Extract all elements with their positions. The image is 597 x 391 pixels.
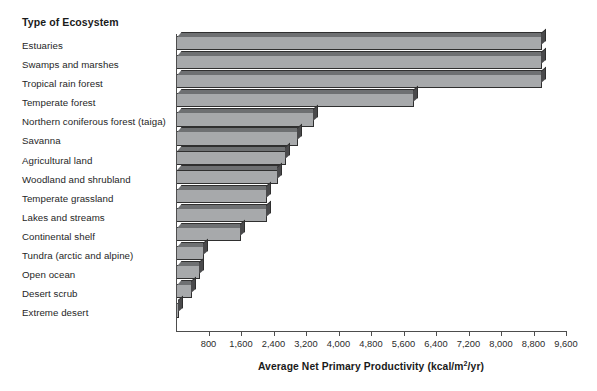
bar [176, 284, 192, 298]
category-label: Continental shelf [22, 227, 172, 246]
bar-top-face [177, 146, 289, 151]
bar [176, 227, 241, 241]
bar [176, 112, 314, 126]
x-tick-label: 3,200 [294, 339, 317, 349]
bar-top-face [177, 165, 281, 170]
x-tick [209, 331, 210, 336]
x-tick-label: 8,800 [522, 339, 545, 349]
category-column-title: Type of Ecosystem [22, 16, 119, 28]
bar-top-face [177, 108, 318, 113]
bar-side-face [178, 296, 183, 312]
category-label: Desert scrub [22, 284, 172, 303]
bar-side-face [266, 181, 271, 197]
bar-top-face [177, 32, 545, 37]
bar-top-face [177, 127, 302, 132]
category-label: Open ocean [22, 265, 172, 284]
x-tick-label: 7,200 [457, 339, 480, 349]
category-label: Woodland and shrubland [22, 170, 172, 189]
bar-side-face [285, 143, 290, 159]
bar-top-face [177, 51, 545, 56]
bar-side-face [541, 67, 546, 83]
bar-top-face [177, 204, 271, 209]
category-label: Temperate forest [22, 93, 172, 112]
bar [176, 131, 298, 145]
x-tick [501, 331, 502, 336]
bar [176, 265, 200, 279]
x-tick-label: 5,600 [392, 339, 415, 349]
bar-row [176, 263, 576, 282]
x-tick [371, 331, 372, 336]
x-tick [436, 331, 437, 336]
category-label: Extreme desert [22, 303, 172, 322]
x-tick-label: 2,400 [262, 339, 285, 349]
x-tick [404, 331, 405, 336]
category-label: Lakes and streams [22, 208, 172, 227]
bar-top-face [177, 89, 417, 94]
bar [176, 74, 542, 88]
bar-side-face [266, 201, 271, 217]
bar-side-face [413, 86, 418, 102]
x-tick [339, 331, 340, 336]
bar-top-face [177, 185, 271, 190]
x-tick [469, 331, 470, 336]
bar [176, 36, 542, 50]
bar-row [176, 168, 576, 187]
x-axis-title-main: Average Net Primary Productivity (kcal/m [258, 361, 464, 372]
bar-side-face [541, 48, 546, 64]
bar-row [176, 225, 576, 244]
bar [176, 55, 542, 69]
x-tick-label: 800 [201, 339, 217, 349]
ecosystem-productivity-chart: Type of Ecosystem EstuariesSwamps and ma… [0, 0, 597, 391]
bar-side-face [297, 124, 302, 140]
category-label-list: EstuariesSwamps and marshesTropical rain… [22, 36, 172, 322]
category-label: Savanna [22, 131, 172, 150]
bar [176, 170, 278, 184]
x-tick [566, 331, 567, 336]
x-tick [306, 331, 307, 336]
bar-side-face [199, 258, 204, 274]
bar-row [176, 244, 576, 263]
category-label: Estuaries [22, 36, 172, 55]
bar-side-face [191, 277, 196, 293]
category-label: Tundra (arctic and alpine) [22, 246, 172, 265]
bar [176, 189, 267, 203]
x-tick-label: 4,800 [359, 339, 382, 349]
bar [176, 246, 204, 260]
bar-row [176, 187, 576, 206]
bar-row [176, 282, 576, 301]
x-tick-label: 1,600 [229, 339, 252, 349]
plot-area [176, 34, 576, 331]
bar-top-face [177, 223, 245, 228]
x-tick-label: 9,600 [554, 339, 577, 349]
category-label: Tropical rain forest [22, 74, 172, 93]
category-label: Agricultural land [22, 151, 172, 170]
bar [176, 151, 286, 165]
y-axis-line [176, 34, 177, 332]
category-label: Temperate grassland [22, 189, 172, 208]
x-tick [241, 331, 242, 336]
bar-side-face [313, 105, 318, 121]
bar-top-face [177, 70, 545, 75]
bar-side-face [541, 29, 546, 45]
category-label: Northern coniferous forest (taiga) [22, 112, 172, 131]
x-tick-label: 6,400 [424, 339, 447, 349]
bar-side-face [240, 220, 245, 236]
x-tick [274, 331, 275, 336]
x-tick-label: 8,000 [489, 339, 512, 349]
x-axis-title: Average Net Primary Productivity (kcal/m… [176, 360, 566, 372]
x-axis-title-tail: /yr) [468, 361, 484, 372]
bar [176, 208, 267, 222]
bar [176, 93, 414, 107]
bar-side-face [203, 239, 208, 255]
bar-row [176, 301, 576, 320]
x-tick-label: 4,000 [327, 339, 350, 349]
category-label: Swamps and marshes [22, 55, 172, 74]
x-tick [534, 331, 535, 336]
